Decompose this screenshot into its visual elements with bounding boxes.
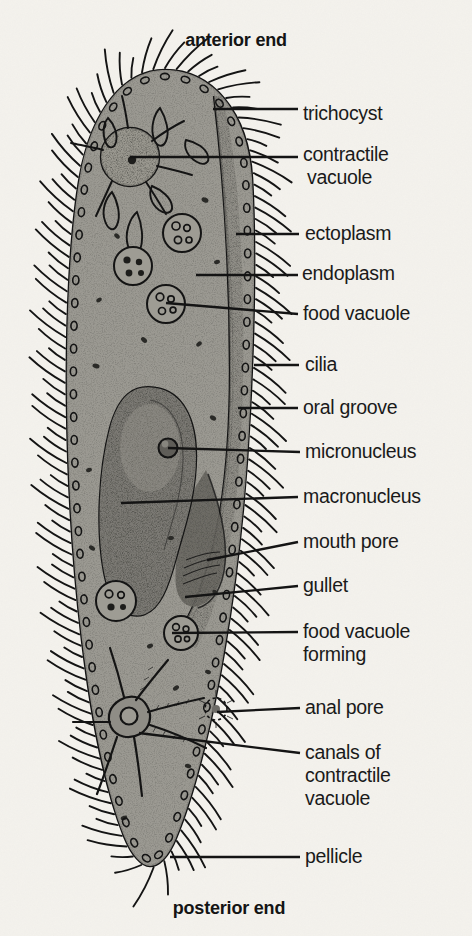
callout-micronucleus: micronucleus: [305, 440, 416, 463]
callout-food-vacuole-forming-2: forming: [303, 643, 366, 666]
callout-canals-of: canals of: [305, 741, 380, 764]
anterior-end-label: anterior end: [0, 30, 472, 51]
food-vacuole-4: [96, 581, 136, 621]
callout-food-vacuole: food vacuole: [303, 302, 410, 325]
callout-contractile-vacuole: contractile: [303, 143, 389, 166]
callout-gullet: gullet: [303, 574, 348, 597]
callout-pellicle: pellicle: [305, 845, 362, 868]
callout-oral-groove: oral groove: [303, 396, 397, 419]
callout-endoplasm: endoplasm: [302, 262, 395, 285]
callout-contractile-vacuole-2: vacuole: [307, 166, 372, 189]
callout-trichocyst: trichocyst: [303, 102, 382, 125]
callout-canals-contractile: contractile: [305, 764, 391, 787]
callout-canals-vacuole: vacuole: [305, 787, 370, 810]
callout-cilia: cilia: [305, 353, 337, 376]
callout-macronucleus: macronucleus: [303, 485, 421, 508]
posterior-end-label: posterior end: [0, 898, 472, 919]
paramecium-illustration: [0, 0, 472, 936]
callout-anal-pore: anal pore: [305, 696, 384, 719]
callout-ectoplasm: ectoplasm: [305, 222, 391, 245]
cilium: [111, 856, 132, 857]
paramecium-figure: anterior end posterior end trichocystcon…: [0, 0, 472, 936]
callout-food-vacuole-forming: food vacuole: [303, 620, 410, 643]
callout-mouth-pore: mouth pore: [303, 530, 399, 553]
food-vacuole-2: [114, 247, 152, 285]
food-vacuole-1: [163, 214, 201, 252]
leader-food-vacuole-forming: [172, 632, 298, 633]
